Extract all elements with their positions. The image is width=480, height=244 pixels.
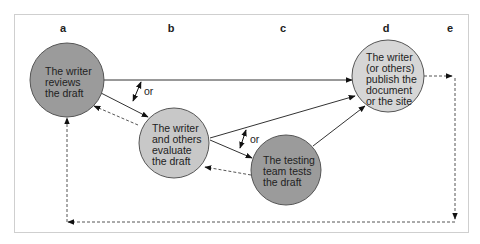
node-review-text: The writer reviews the draft (45, 66, 92, 99)
column-label-a: a (60, 22, 66, 34)
text-line: or the site (366, 96, 417, 107)
or-label-2: or (250, 133, 259, 145)
column-label-d: d (383, 22, 390, 34)
edge-evaluate-to-test (210, 140, 252, 158)
edge-test-to-evaluate (205, 167, 251, 175)
node-evaluate-text: The writer and others evaluate the draft (152, 123, 202, 167)
or-label-1: or (144, 85, 153, 97)
or-arrow-2 (240, 130, 246, 148)
text-line: the draft (263, 177, 315, 188)
or-arrow-1 (133, 82, 141, 101)
text-line: the draft (45, 88, 92, 99)
column-label-b: b (168, 22, 175, 34)
column-label-e: e (447, 22, 453, 34)
node-publish-text: The writer (or others) publish the docum… (366, 52, 417, 107)
node-test-text: The testing team tests the draft (263, 155, 315, 188)
edge-evaluate-to-publish (210, 96, 355, 138)
text-line: the draft (152, 156, 202, 167)
edge-test-to-publish (313, 106, 365, 146)
diagram-canvas (0, 0, 480, 244)
column-label-c: c (280, 22, 286, 34)
edge-review-to-evaluate (101, 93, 148, 117)
